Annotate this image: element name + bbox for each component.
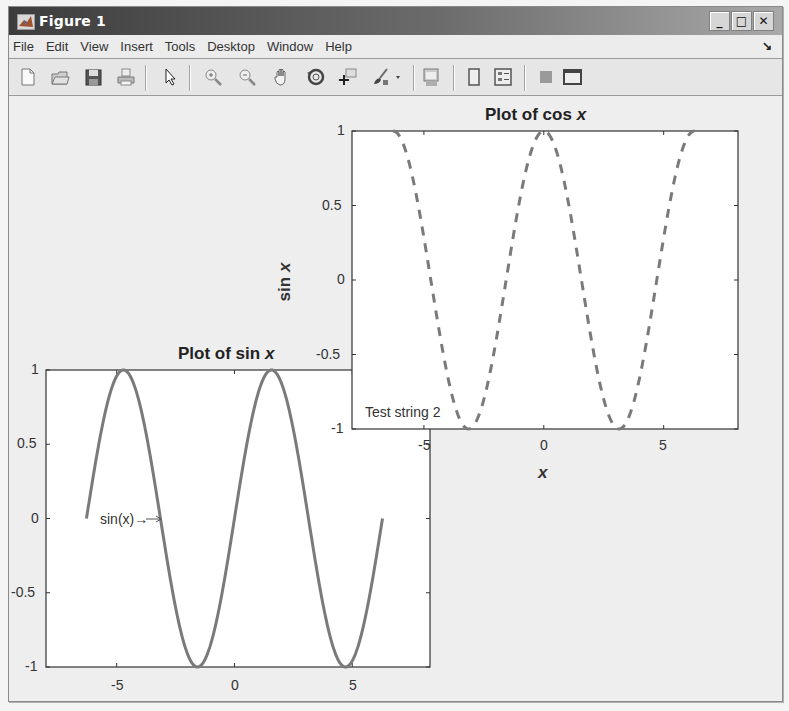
sin-ytick-0.5: 0.5 bbox=[17, 435, 36, 451]
cos-ylabel: sin x bbox=[275, 263, 295, 302]
cos-ytick--1: -1 bbox=[331, 420, 343, 436]
cos-plot-title: Plot of cos x bbox=[485, 105, 586, 125]
cos-axes[interactable] bbox=[352, 131, 738, 429]
cos-ytick-1: 1 bbox=[337, 122, 345, 138]
sin-annotation[interactable]: sin(x)→ bbox=[100, 511, 148, 527]
sin-ytick-1: 1 bbox=[31, 361, 39, 377]
sin-xtick--5: -5 bbox=[111, 677, 123, 693]
plot-canvas bbox=[0, 0, 789, 711]
cos-ytick-0: 0 bbox=[337, 271, 345, 287]
cos-xtick-0: 0 bbox=[540, 437, 548, 453]
cos-ytick--0.5: -0.5 bbox=[316, 346, 340, 362]
cos-xtick--5: -5 bbox=[418, 437, 430, 453]
sin-plot-title: Plot of sin x bbox=[178, 344, 274, 364]
axes-box bbox=[352, 131, 738, 429]
cos-xlabel: x bbox=[538, 463, 547, 483]
sin-ytick--0.5: -0.5 bbox=[11, 584, 35, 600]
cos-annotation[interactable]: Test string 2 bbox=[365, 404, 440, 420]
sin-xtick-5: 5 bbox=[349, 677, 357, 693]
sin-xtick-0: 0 bbox=[231, 677, 239, 693]
sin-ytick--1: -1 bbox=[25, 658, 37, 674]
cos-xtick-5: 5 bbox=[659, 437, 667, 453]
sin-ytick-0: 0 bbox=[31, 510, 39, 526]
cos-ytick-0.5: 0.5 bbox=[322, 197, 341, 213]
